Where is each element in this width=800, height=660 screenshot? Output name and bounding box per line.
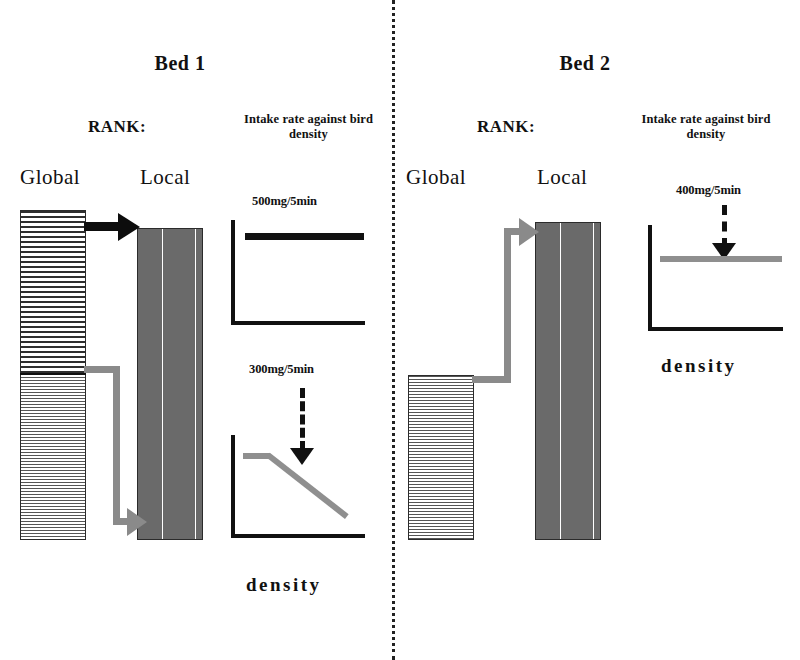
bed-1-global-bar-high-rank <box>20 210 86 374</box>
bed-1-gray-rank-arrow-head <box>127 508 147 536</box>
bed-1-local-bar <box>137 228 203 540</box>
bed-2-gray-rank-arrow-head <box>519 218 539 246</box>
bed-2-global-label: Global <box>406 165 466 190</box>
bed-2-inset-title: Intake rate against bird density <box>627 112 785 142</box>
panel-divider <box>392 0 395 660</box>
bed-1-upper-plot-line <box>245 233 364 240</box>
bed-1-global-bar-low-rank <box>20 373 86 540</box>
bed-1-inset-title: Intake rate against bird density <box>231 112 386 142</box>
bed-1-gray-rank-arrow-seg-vertical <box>113 366 120 522</box>
bed-2-density-label: density <box>661 355 737 377</box>
bed-2-plot-x-axis <box>648 327 783 331</box>
bed-2-global-bar-low-rank <box>408 375 474 540</box>
bed-1-lower-annotation-arrow-head <box>290 448 314 465</box>
bed-1-lower-annotation-arrow-shaft <box>300 388 305 451</box>
bed-1-upper-plot-x-axis <box>231 321 365 325</box>
bed-1-lower-plot-x-axis <box>231 534 365 538</box>
bed-1-density-label: density <box>246 574 322 596</box>
bed-2-local-label: Local <box>537 165 587 190</box>
bed-1-lower-plot-y-axis <box>231 435 235 537</box>
bed-1-rank-label: RANK: <box>88 117 146 137</box>
bed-2-plot-y-axis <box>648 225 652 330</box>
bed-2-title: Bed 2 <box>525 52 645 75</box>
bed-1-black-rank-arrow-head <box>118 213 140 241</box>
bed-2-plot-line <box>660 256 782 262</box>
bed-1-local-bar-pattern-offset <box>138 229 202 539</box>
bed-2-rank-label: RANK: <box>477 117 535 137</box>
bed-1-global-label: Global <box>20 165 80 190</box>
bed-2-rate-label: 400mg/5min <box>676 183 741 198</box>
bed-2-annotation-arrow-shaft <box>722 205 727 248</box>
bed-1-black-rank-arrow-shaft <box>84 222 120 231</box>
bed-2-local-bar-pattern-offset <box>536 223 600 539</box>
bed-1-upper-rate-label: 500mg/5min <box>252 194 317 209</box>
bed-2-gray-rank-arrow-seg-vertical <box>504 228 511 383</box>
bed-1-upper-plot-y-axis <box>231 220 235 324</box>
bed-1-global-bar-split <box>20 373 86 375</box>
bed-1-local-label: Local <box>140 165 190 190</box>
bed-1-title: Bed 1 <box>120 52 240 75</box>
figure-canvas: Bed 1 RANK: Global Local Intake rate aga… <box>0 0 800 660</box>
bed-1-lower-rate-label: 300mg/5min <box>249 362 314 377</box>
bed-2-local-bar <box>535 222 601 540</box>
